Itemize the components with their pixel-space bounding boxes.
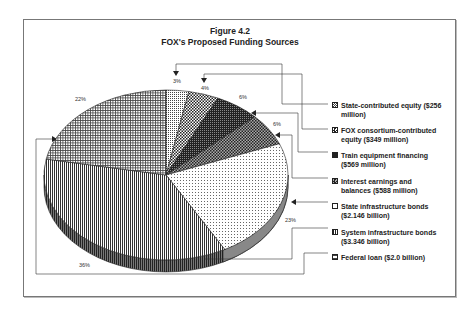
pie-slices xyxy=(44,90,288,260)
pct-label-6b: 6% xyxy=(273,121,281,127)
legend-item-train-financing: Train equipment financing($569 million) xyxy=(332,151,450,169)
pct-label-6a: 6% xyxy=(239,94,247,100)
pct-label-4: 4% xyxy=(201,85,209,91)
legend-item-federal-loan: Federal loan ($2.0 billion) xyxy=(332,253,450,262)
swatch-grid-icon xyxy=(332,254,338,260)
legend-item-state-bonds: State infrastructure bonds($2.146 billio… xyxy=(332,202,450,220)
legend-item-fox-equity: FOX consortium-contributedequity ($349 m… xyxy=(332,126,450,144)
swatch-dark-icon xyxy=(332,152,338,158)
swatch-checker-icon xyxy=(332,127,338,133)
swatch-diamond-icon xyxy=(332,178,338,184)
legend-item-system-bonds: System infrastructure bonds($3.346 billi… xyxy=(332,228,450,246)
swatch-fine-dots-icon xyxy=(332,102,338,108)
pct-label-3: 3% xyxy=(173,78,181,84)
pct-label-23: 23% xyxy=(285,217,296,223)
pct-label-22: 22% xyxy=(75,96,86,102)
swatch-sparse-dots-icon xyxy=(332,203,338,209)
legend-item-interest-earnings: Interest earnings andbalances ($588 mill… xyxy=(332,177,450,195)
swatch-vertical-lines-icon xyxy=(332,229,338,235)
legend-item-state-equity: State-contributed equity ($256million) xyxy=(332,101,450,119)
pct-label-36: 36% xyxy=(79,262,90,268)
